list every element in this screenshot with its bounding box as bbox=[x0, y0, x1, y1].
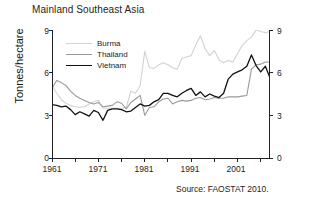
legend-label-vietnam: Vietnam bbox=[97, 60, 126, 71]
legend-swatch-vietnam bbox=[66, 65, 92, 66]
y-tick-label-right-9: 9 bbox=[277, 26, 286, 36]
source-note: Source: FAOSTAT 2010. bbox=[176, 184, 269, 194]
page-title: Mainland Southeast Asia bbox=[32, 4, 144, 15]
y-tick-label-left-0: 0 bbox=[40, 153, 49, 163]
legend-swatch-burma bbox=[66, 43, 92, 44]
y-tick-label-left-9: 9 bbox=[40, 26, 49, 36]
y-tick-label-right-6: 6 bbox=[277, 68, 286, 78]
chart-figure: Mainland Southeast Asia Tonnes/hectare 9… bbox=[0, 0, 310, 205]
x-tick-label-2001: 2001 bbox=[219, 164, 253, 174]
y-tick-label-right-3: 3 bbox=[277, 111, 286, 121]
legend-label-thailand: Thailand bbox=[97, 49, 128, 60]
y-tick-label-left-3: 3 bbox=[40, 111, 49, 121]
legend: Burma Thailand Vietnam bbox=[66, 38, 128, 71]
y-axis-title: Tonnes/hectare bbox=[13, 11, 25, 121]
y-tick-label-left-6: 6 bbox=[40, 68, 49, 78]
x-tick-label-1961: 1961 bbox=[35, 164, 69, 174]
x-tick-label-1981: 1981 bbox=[127, 164, 161, 174]
y-tick-label-right-0: 0 bbox=[277, 153, 286, 163]
x-tick-label-1991: 1991 bbox=[173, 164, 207, 174]
x-tick-label-1971: 1971 bbox=[81, 164, 115, 174]
legend-item-burma: Burma bbox=[66, 38, 128, 49]
legend-swatch-thailand bbox=[66, 54, 92, 55]
legend-item-vietnam: Vietnam bbox=[66, 60, 128, 71]
legend-label-burma: Burma bbox=[97, 38, 121, 49]
legend-item-thailand: Thailand bbox=[66, 49, 128, 60]
